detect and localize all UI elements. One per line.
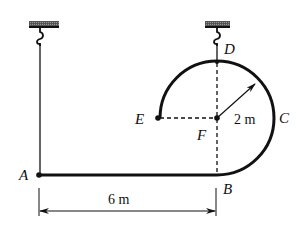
- right-ceiling-support: [205, 21, 230, 27]
- label-A: A: [18, 167, 29, 183]
- label-D: D: [223, 41, 235, 57]
- left-hook-icon: [37, 27, 43, 46]
- label-E: E: [134, 111, 144, 127]
- label-radius: 2 m: [234, 112, 256, 127]
- point-A: [36, 172, 42, 178]
- label-B: B: [223, 181, 232, 197]
- wire-diagram: A B C D E F 2 m 6 m: [0, 0, 308, 234]
- label-length-AB: 6 m: [108, 192, 130, 207]
- point-D: [215, 60, 219, 64]
- right-hook-icon: [214, 27, 220, 46]
- label-F: F: [196, 127, 207, 143]
- diagram-canvas: A B C D E F 2 m 6 m: [0, 0, 308, 234]
- point-F: [214, 115, 220, 121]
- point-E: [155, 115, 161, 121]
- label-C: C: [279, 110, 290, 126]
- left-ceiling-support: [29, 21, 59, 27]
